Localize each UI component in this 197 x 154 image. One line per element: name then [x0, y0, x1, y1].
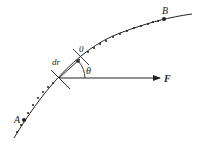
- label-force: F: [163, 73, 171, 84]
- label-theta: θ: [86, 65, 91, 76]
- displacement-vector: [59, 59, 80, 78]
- curve-dots: [16, 20, 159, 133]
- label-a: A: [13, 114, 21, 125]
- point-a: [22, 118, 26, 122]
- point-b: [162, 17, 166, 21]
- label-dr: dr: [52, 57, 61, 67]
- angle-arc: [79, 62, 85, 78]
- tick-mark-start: [51, 70, 70, 89]
- label-origin: 0: [79, 44, 84, 54]
- work-diagram: A B 0 dr θ F: [0, 0, 197, 154]
- label-b: B: [162, 5, 168, 16]
